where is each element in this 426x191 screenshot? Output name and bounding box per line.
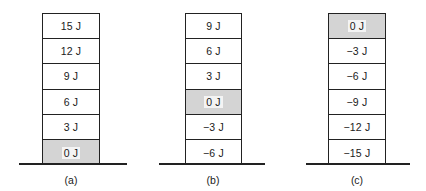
level-label: 6 J — [64, 96, 79, 108]
level-cell: −15 J — [329, 140, 385, 165]
reference-level-cell: 0 J — [43, 140, 99, 165]
ground-line-b — [159, 163, 265, 165]
level-cell: 3 J — [186, 64, 241, 89]
level-label: 3 J — [64, 121, 79, 133]
energy-stack-b: 9 J 6 J 3 J 0 J −3 J −6 J — [185, 13, 242, 165]
level-label: −6 J — [347, 70, 368, 82]
level-cell: 15 J — [43, 14, 99, 39]
reference-level-cell: 0 J — [186, 90, 241, 115]
level-label: 0 J — [348, 20, 367, 32]
level-cell: −9 J — [329, 90, 385, 115]
level-label: 0 J — [62, 147, 81, 159]
ground-line-c — [306, 163, 410, 165]
level-label: 9 J — [206, 20, 221, 32]
caption-b: (b) — [198, 174, 228, 186]
energy-stack-a: 15 J 12 J 9 J 6 J 3 J 0 J — [42, 13, 100, 165]
level-label: −3 J — [203, 121, 224, 133]
caption-a: (a) — [56, 174, 86, 186]
level-label: 3 J — [206, 70, 221, 82]
level-label: 6 J — [206, 45, 221, 57]
level-label: −12 J — [344, 121, 371, 133]
level-label: 12 J — [61, 45, 82, 57]
level-cell: 9 J — [43, 64, 99, 89]
level-label: −6 J — [203, 147, 224, 159]
level-cell: −6 J — [186, 140, 241, 165]
level-cell: −3 J — [186, 115, 241, 140]
level-label: 0 J — [204, 96, 223, 108]
reference-level-cell: 0 J — [329, 14, 385, 39]
level-cell: 6 J — [186, 39, 241, 64]
level-cell: 9 J — [186, 14, 241, 39]
level-cell: −12 J — [329, 115, 385, 140]
level-label: 9 J — [64, 70, 79, 82]
level-cell: −3 J — [329, 39, 385, 64]
ground-line-a — [19, 163, 127, 165]
level-label: 15 J — [61, 20, 82, 32]
energy-stack-c: 0 J −3 J −6 J −9 J −12 J −15 J — [328, 13, 386, 165]
level-label: −9 J — [347, 96, 368, 108]
level-label: −3 J — [347, 45, 368, 57]
level-cell: 12 J — [43, 39, 99, 64]
level-cell: 6 J — [43, 90, 99, 115]
level-cell: 3 J — [43, 115, 99, 140]
level-cell: −6 J — [329, 64, 385, 89]
caption-c: (c) — [342, 174, 372, 186]
level-label: −15 J — [344, 147, 371, 159]
